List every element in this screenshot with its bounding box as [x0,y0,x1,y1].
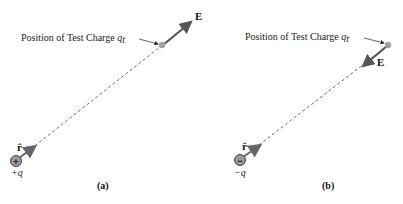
panel-b: Position of Test Charge qt E − r̂ −q (b) [234,31,391,192]
panel-caption: (b) [322,180,334,192]
unit-vector-label: r̂ [242,140,247,152]
label-leader-line [139,39,158,44]
panel-a: Position of Test Charge qt E + r̂ +q (a) [11,10,203,192]
field-vector-arrow [163,22,191,45]
test-charge-label: Position of Test Charge qt [21,32,125,45]
source-charge-label: −q [234,167,246,178]
test-charge-label: Position of Test Charge qt [245,31,349,44]
plus-sign-icon: + [13,157,18,167]
test-charge-dot [385,42,391,48]
unit-vector-label: r̂ [17,141,22,153]
test-charge-dot [159,42,165,48]
minus-sign-icon: − [237,156,242,166]
label-leader-line [364,38,384,43]
separation-dashed-line [22,47,160,156]
source-charge-label: +q [11,167,23,178]
field-label: E [195,10,202,22]
panel-caption: (a) [97,180,109,192]
field-label: E [377,56,384,68]
electric-field-diagram: Position of Test Charge qt E + r̂ +q (a)… [0,0,403,204]
